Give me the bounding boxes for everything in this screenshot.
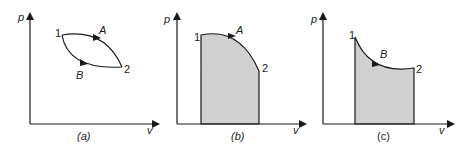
pv-diagrams: p v 1 2 A B (a) p v 1 2 A (b) p v 1 2 B …	[0, 0, 470, 149]
point-1-label: 1	[349, 29, 355, 41]
path-B-label: B	[380, 48, 387, 60]
path-A-label: A	[98, 24, 106, 36]
y-axis-label: p	[17, 11, 24, 23]
path-A-label: A	[235, 24, 243, 36]
caption: (b)	[231, 130, 245, 142]
panel-a: p v 1 2 A B (a)	[17, 11, 158, 142]
x-axis-label: v	[293, 124, 300, 136]
point-1-label: 1	[55, 27, 61, 39]
x-axis-label: v	[439, 124, 446, 136]
work-area	[201, 34, 259, 124]
panel-c: p v 1 2 B (c)	[310, 13, 453, 142]
panel-b: p v 1 2 A (b)	[163, 13, 305, 142]
point-2-label: 2	[416, 63, 422, 75]
path-B-label: B	[76, 69, 83, 81]
caption: (c)	[377, 130, 390, 142]
point-2-label: 2	[124, 63, 130, 75]
x-axis-label: v	[147, 124, 154, 136]
y-axis-label: p	[163, 13, 170, 25]
process-path-A	[62, 34, 122, 67]
point-1-label: 1	[194, 31, 200, 43]
caption: (a)	[77, 130, 91, 142]
arrow-B-icon	[80, 59, 88, 66]
y-axis-label: p	[310, 13, 317, 25]
point-2-label: 2	[262, 62, 268, 74]
